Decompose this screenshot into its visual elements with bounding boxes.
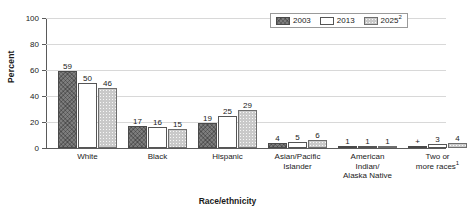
plot-area: 020406080100 595046171615192529456111+34 — [46, 18, 446, 148]
bar-value-label: 6 — [315, 132, 319, 140]
bar: 15 — [168, 129, 187, 149]
bar: 59 — [58, 71, 77, 148]
y-tick-mark — [42, 96, 46, 97]
y-tick-mark — [42, 70, 46, 71]
x-category-label-line: Alaska Native — [328, 171, 408, 181]
bar: + — [408, 146, 427, 148]
chart-legend: 2003201320252 — [270, 13, 408, 28]
bar-value-label: 16 — [153, 119, 162, 127]
y-tick-mark — [42, 122, 46, 123]
x-category-label-line: Black — [118, 152, 198, 162]
x-category-label: Two ormore races1 — [398, 152, 471, 171]
legend-item: 2013 — [320, 16, 355, 25]
bar: 17 — [128, 126, 147, 148]
legend-label: 20252 — [381, 16, 402, 25]
bar-value-label: 1 — [345, 138, 349, 146]
bar: 4 — [448, 143, 467, 148]
x-category-label: White — [48, 152, 128, 162]
x-category-label: AmericanIndian/Alaska Native — [328, 152, 408, 181]
x-category-label-line: Islander — [258, 162, 338, 172]
bar: 16 — [148, 127, 167, 148]
bar: 19 — [198, 123, 217, 148]
bar: 25 — [218, 116, 237, 149]
legend-label: 2013 — [337, 16, 355, 25]
x-category-label-line: Hispanic — [188, 152, 268, 162]
footnote-marker: 1 — [456, 160, 459, 166]
legend-item: 2003 — [276, 16, 311, 25]
bar: 1 — [378, 146, 397, 148]
bar-value-label: 4 — [455, 135, 459, 143]
x-category-label-line: American — [328, 152, 408, 162]
legend-swatch — [320, 17, 334, 25]
bar: 4 — [268, 143, 287, 148]
bar: 46 — [98, 88, 117, 148]
y-axis-line — [46, 18, 47, 148]
y-tick-label: 80 — [30, 40, 39, 49]
bar: 3 — [428, 144, 447, 148]
y-tick-mark — [42, 18, 46, 19]
bar: 1 — [338, 146, 357, 148]
y-tick-label: 60 — [30, 66, 39, 75]
bar-value-label: 29 — [243, 102, 252, 110]
legend-swatch — [364, 17, 378, 25]
x-category-label-line: Two or — [398, 152, 471, 162]
bar-value-label: 50 — [83, 75, 92, 83]
y-tick-label: 100 — [26, 14, 39, 23]
y-tick-mark — [42, 148, 46, 149]
bar: 1 — [358, 146, 377, 148]
x-category-label-line: White — [48, 152, 128, 162]
x-category-label-line: Asian/Pacific — [258, 152, 338, 162]
x-category-label-line: Indian/ — [328, 162, 408, 172]
legend-item: 20252 — [364, 16, 402, 25]
bar: 5 — [288, 142, 307, 149]
bar: 50 — [78, 83, 97, 148]
bar-value-label: 4 — [275, 135, 279, 143]
bar: 6 — [308, 140, 327, 148]
bar-value-label: 3 — [435, 136, 439, 144]
y-tick-label: 0 — [35, 144, 39, 153]
bar-value-label: 25 — [223, 108, 232, 116]
gridline — [46, 44, 446, 45]
y-tick-label: 40 — [30, 92, 39, 101]
y-axis-title: Percent — [6, 50, 16, 83]
bar-value-label: 59 — [63, 63, 72, 71]
x-axis-line — [46, 148, 446, 149]
legend-swatch — [276, 17, 290, 25]
bar-value-label: 5 — [295, 134, 299, 142]
x-category-label: Hispanic — [188, 152, 268, 162]
bar-value-label: 1 — [365, 138, 369, 146]
y-tick-mark — [42, 44, 46, 45]
x-category-label: Black — [118, 152, 198, 162]
x-axis-title: Race/ethnicity — [0, 196, 455, 206]
bar-value-label: 1 — [385, 138, 389, 146]
x-category-label: Asian/PacificIslander — [258, 152, 338, 171]
bar-value-label: 19 — [203, 115, 212, 123]
bar-value-label: 17 — [133, 118, 142, 126]
bar: 29 — [238, 110, 257, 148]
bar-value-label: 46 — [103, 80, 112, 88]
x-category-label-line: more races1 — [398, 162, 471, 172]
gridline — [46, 70, 446, 71]
bar-value-label: 15 — [173, 121, 182, 129]
bar-value-label: + — [415, 138, 420, 146]
legend-label: 2003 — [293, 16, 311, 25]
footnote-marker: 2 — [398, 14, 401, 20]
y-tick-label: 20 — [30, 118, 39, 127]
